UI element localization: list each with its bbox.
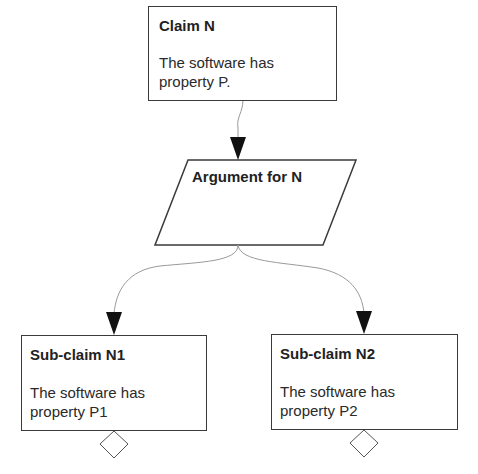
diamond-icon — [100, 431, 128, 458]
arrowhead-down-icon — [230, 137, 246, 160]
edge-claim-to-argument — [238, 100, 243, 138]
edge-argument-to-subclaim1 — [114, 245, 238, 314]
arrowhead-down-icon — [356, 311, 372, 334]
subclaim2-node[interactable]: Sub-claim N2 The software has property P… — [271, 334, 458, 430]
subclaim2-title: Sub-claim N2 — [280, 345, 375, 362]
claim-title: Claim N — [159, 17, 215, 34]
edge-argument-to-subclaim2 — [238, 245, 364, 313]
diagram-canvas: Claim N The software has property P. Arg… — [0, 0, 478, 474]
subclaim1-body: The software has property P1 — [30, 383, 145, 421]
arrowhead-down-icon — [106, 312, 122, 335]
subclaim1-title: Sub-claim N1 — [30, 346, 125, 363]
claim-body-line: The software has — [159, 53, 274, 72]
claim-body: The software has property P. — [159, 53, 274, 91]
argument-title: Argument for N — [192, 168, 302, 185]
subclaim2-body-line: The software has — [280, 382, 395, 401]
subclaim2-body-line: property P2 — [280, 401, 395, 420]
subclaim1-body-line: property P1 — [30, 402, 145, 421]
subclaim1-node[interactable]: Sub-claim N1 The software has property P… — [21, 335, 207, 431]
diamond-icon — [350, 430, 378, 457]
subclaim1-body-line: The software has — [30, 383, 145, 402]
claim-body-line: property P. — [159, 72, 274, 91]
subclaim2-body: The software has property P2 — [280, 382, 395, 420]
claim-node[interactable]: Claim N The software has property P. — [148, 6, 337, 101]
